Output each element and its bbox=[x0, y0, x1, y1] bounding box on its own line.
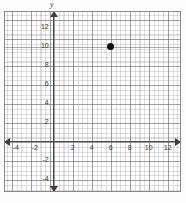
x-tick-label: -4 bbox=[13, 144, 19, 152]
y-tick-label: 4 bbox=[45, 99, 49, 107]
y-tick-label: 8 bbox=[45, 61, 49, 69]
x-tick-label: 10 bbox=[145, 144, 153, 152]
y-axis-up-arrow-icon bbox=[50, 11, 58, 17]
x-axis-line bbox=[5, 141, 181, 142]
x-axis-right-arrow-icon bbox=[175, 138, 181, 146]
y-tick-label: -2 bbox=[42, 156, 48, 164]
x-tick-label: 4 bbox=[90, 144, 94, 152]
x-tick-label: 2 bbox=[71, 144, 75, 152]
plot-area: -4-224681012 -4-224681012 bbox=[4, 11, 181, 192]
y-axis-down-arrow-icon bbox=[50, 186, 58, 192]
y-tick-label: 12 bbox=[41, 23, 49, 31]
x-tick-label: 12 bbox=[164, 144, 172, 152]
y-axis-line bbox=[53, 12, 54, 192]
x-tick-label: -2 bbox=[32, 144, 38, 152]
major-gridlines bbox=[5, 12, 180, 191]
coordinate-plane-figure: y x -4-224681012 -4-224681012 bbox=[0, 0, 186, 203]
x-tick-label: 6 bbox=[109, 144, 113, 152]
y-tick-label: 2 bbox=[45, 118, 49, 126]
y-tick-label: 6 bbox=[45, 80, 49, 88]
x-axis-left-arrow-icon bbox=[4, 138, 10, 146]
y-tick-label: 10 bbox=[41, 42, 49, 50]
x-tick-label: 8 bbox=[128, 144, 132, 152]
y-tick-label: -4 bbox=[42, 175, 48, 183]
y-axis-name-label: y bbox=[50, 0, 53, 9]
plotted-point bbox=[107, 43, 114, 50]
